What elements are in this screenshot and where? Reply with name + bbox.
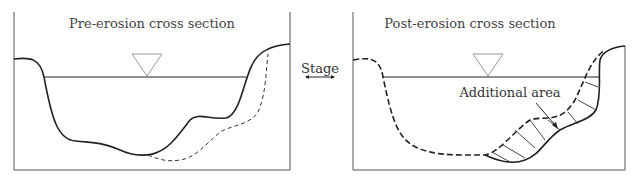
water-level-triangle bbox=[132, 54, 162, 76]
post-erosion-panel: Post-erosion cross section Additional ar… bbox=[353, 12, 625, 170]
post-erosion-bed-profile bbox=[485, 46, 625, 162]
pre-erosion-bed-profile bbox=[14, 44, 290, 155]
annotation-arrow bbox=[536, 103, 556, 126]
additional-area-label: Additional area bbox=[458, 85, 560, 100]
erosion-diagram: Pre-erosion cross section Stage Post-ero… bbox=[0, 0, 634, 182]
pre-erosion-bed-profile-dashed bbox=[353, 50, 605, 155]
panel-title: Pre-erosion cross section bbox=[69, 16, 236, 31]
pre-erosion-panel: Pre-erosion cross section bbox=[14, 12, 290, 170]
stage-label: Stage bbox=[301, 61, 339, 76]
stage-indicator: Stage bbox=[301, 61, 339, 79]
water-level-triangle bbox=[473, 54, 503, 76]
panel-frame bbox=[14, 12, 290, 170]
panel-title: Post-erosion cross section bbox=[384, 16, 556, 31]
